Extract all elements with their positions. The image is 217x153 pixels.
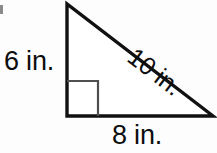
diagram-canvas: 6 in. 8 in. 10 in. [0, 0, 217, 153]
scan-artifact-speck [0, 5, 3, 14]
label-vertical-leg: 6 in. [4, 48, 54, 75]
label-horizontal-leg: 8 in. [112, 122, 162, 149]
